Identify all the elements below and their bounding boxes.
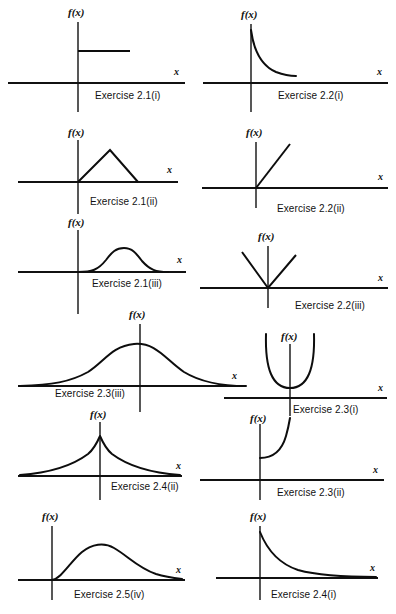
x-axis-label: x: [377, 66, 382, 77]
y-axis-label: f(x): [246, 126, 263, 138]
figure-sheet: f(x) x Exercise 2.1(i) f(x) x Exercise 2…: [0, 0, 396, 614]
caption-exercise-2-5-iv: Exercise 2.5(iv): [74, 589, 145, 600]
y-axis-label: f(x): [42, 510, 59, 522]
caption-exercise-2-3-iii: Exercise 2.3(iii): [55, 388, 125, 399]
y-axis-label: f(x): [68, 216, 85, 228]
caption-exercise-2-2-ii: Exercise 2.2(ii): [277, 203, 345, 214]
plot-convex-increasing: [198, 416, 396, 516]
density-curve: [260, 418, 290, 458]
caption-exercise-2-3-i: Exercise 2.3(i): [293, 404, 358, 415]
x-axis-label: x: [176, 460, 181, 471]
caption-exercise-2-2-i: Exercise 2.2(i): [278, 90, 343, 101]
caption-exercise-2-1-iii: Exercise 2.1(iii): [92, 278, 162, 289]
density-curve: [52, 545, 182, 580]
density-curve: [78, 150, 138, 182]
caption-exercise-2-2-iii: Exercise 2.2(iii): [295, 300, 365, 311]
plot-bell-right: [0, 222, 198, 322]
panel-exercise-2-3-ii: f(x) x: [198, 416, 396, 516]
y-axis-label: f(x): [68, 6, 85, 18]
panel-exercise-2-4-ii: f(x) x: [0, 418, 198, 518]
x-axis-label: x: [174, 66, 179, 77]
caption-exercise-2-1-ii: Exercise 2.1(ii): [90, 196, 158, 207]
density-curve: [78, 248, 168, 272]
y-axis-label: f(x): [281, 330, 298, 342]
y-axis-label: f(x): [258, 230, 275, 242]
plot-wide-bell: [0, 318, 250, 418]
y-axis-label: f(x): [129, 308, 146, 320]
x-axis-label: x: [373, 464, 378, 475]
y-axis-label: f(x): [250, 412, 267, 424]
density-curve: [20, 344, 246, 386]
panel-exercise-2-3-iii: f(x) x: [0, 318, 250, 418]
caption-exercise-2-4-ii: Exercise 2.4(ii): [111, 481, 179, 492]
density-curve: [242, 252, 296, 288]
x-axis-label: x: [176, 564, 181, 575]
y-axis-label: f(x): [68, 126, 85, 138]
x-axis-label: x: [370, 562, 375, 573]
density-curve: [260, 532, 376, 577]
x-axis-label: x: [378, 171, 383, 182]
y-axis-label: f(x): [250, 510, 267, 522]
x-axis-label: x: [177, 254, 182, 265]
y-axis-label: f(x): [90, 408, 107, 420]
x-axis-label: x: [378, 382, 383, 393]
x-axis-label: x: [167, 164, 172, 175]
caption-exercise-2-3-ii: Exercise 2.3(ii): [277, 487, 345, 498]
caption-exercise-2-1-i: Exercise 2.1(i): [95, 90, 160, 101]
plot-laplace-peak: [0, 418, 198, 518]
density-curve: [251, 30, 296, 76]
y-axis-label: f(x): [241, 8, 258, 20]
caption-exercise-2-4-i: Exercise 2.4(i): [271, 589, 336, 600]
density-curve: [256, 144, 290, 188]
x-axis-label: x: [378, 272, 383, 283]
panel-exercise-2-1-iii: f(x) x: [0, 222, 198, 322]
